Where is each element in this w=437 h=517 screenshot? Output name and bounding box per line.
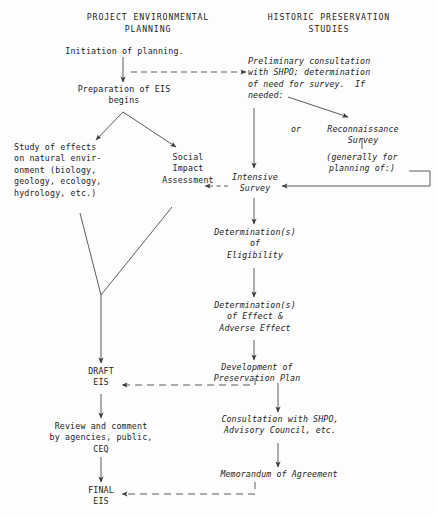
line-study-to-junction bbox=[80, 213, 101, 295]
node-determinations-effect: Determination(s) of Effect & Adverse Eff… bbox=[199, 300, 311, 334]
node-preliminary-consultation: Preliminary consultation with SHPO; dete… bbox=[248, 56, 434, 102]
node-reconnaissance-survey: Reconnaissance Survey bbox=[316, 124, 410, 147]
node-or-connector: or bbox=[283, 124, 309, 135]
node-final-eis: FINAL EIS bbox=[63, 485, 139, 508]
flowchart-page: PROJECT ENVIRONMENTAL PLANNING HISTORIC … bbox=[0, 0, 437, 517]
left-column-header: PROJECT ENVIRONMENTAL PLANNING bbox=[58, 12, 238, 35]
node-determinations-eligibility: Determination(s) of Eligibility bbox=[199, 227, 311, 261]
node-consultation-shpo: Consultation with SHPO, Advisory Council… bbox=[190, 414, 370, 437]
node-study-of-effects: Study of effects on natural envir- onmen… bbox=[14, 142, 154, 199]
node-review-and-comment: Review and comment by agencies, public, … bbox=[18, 421, 184, 455]
arrow-memorandum-to-final bbox=[122, 482, 255, 494]
node-memorandum-of-agreement: Memorandum of Agreement bbox=[184, 469, 374, 480]
node-intensive-survey: Intensive Survey bbox=[215, 172, 295, 195]
node-preparation-of-eis: Preparation of EIS begins bbox=[44, 84, 204, 107]
node-generally-for-planning: (generally for planning of:) bbox=[312, 152, 412, 175]
node-development-preservation: Development of Preservation Plan bbox=[198, 362, 316, 385]
arrow-preparation-to-study bbox=[96, 112, 123, 140]
line-social-to-junction bbox=[101, 207, 172, 295]
node-draft-eis: DRAFT EIS bbox=[63, 366, 139, 389]
right-column-header: HISTORIC PRESERVATION STUDIES bbox=[238, 12, 420, 35]
node-initiation-of-planning: Initiation of planning. bbox=[42, 46, 207, 57]
